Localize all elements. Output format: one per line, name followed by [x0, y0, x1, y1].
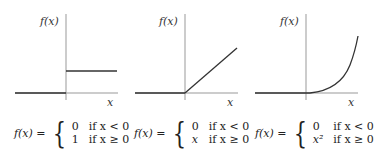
formula-quadratic: f(x) = { 0 if x < 0 x² if x ≥ 0	[255, 118, 374, 148]
formula-lhs: f(x) =	[255, 127, 287, 140]
x-axis-label: x	[227, 96, 234, 109]
formula-cases: 0 if x < 0 1 if x ≥ 0	[72, 120, 130, 146]
formula-lhs: f(x) =	[134, 127, 166, 140]
formula-cases: 0 if x < 0 x² if x ≥ 0	[313, 120, 374, 146]
case-value: 0	[72, 120, 79, 133]
brace-icon: {	[172, 118, 185, 148]
panel-quadratic: f(x) x	[255, 14, 358, 109]
case-condition: if x ≥ 0	[209, 133, 250, 146]
formula-cases: 0 if x < 0 x if x ≥ 0	[192, 120, 250, 146]
x-axis-label: x	[348, 96, 355, 109]
brace-icon: {	[293, 118, 306, 148]
case-condition: if x < 0	[89, 120, 130, 133]
case-value: 1	[72, 133, 79, 146]
panel-linear: f(x) x	[135, 14, 238, 109]
case-value: 0	[192, 120, 199, 133]
y-axis-label: f(x)	[39, 15, 59, 28]
curve-positive	[185, 48, 237, 93]
brace-icon: {	[52, 118, 65, 148]
y-axis-label: f(x)	[279, 15, 299, 28]
case-value: x	[192, 133, 199, 146]
panel-step: f(x) x	[15, 14, 118, 109]
formula-lhs: f(x) =	[14, 127, 46, 140]
x-axis-label: x	[107, 96, 114, 109]
formula-step: f(x) = { 0 if x < 0 1 if x ≥ 0	[14, 118, 129, 148]
case-condition: if x < 0	[333, 120, 374, 133]
y-axis-label: f(x)	[158, 15, 178, 28]
case-condition: if x ≥ 0	[89, 133, 130, 146]
case-value: 0	[313, 120, 324, 133]
case-value: x²	[313, 133, 324, 146]
formula-linear: f(x) = { 0 if x < 0 x if x ≥ 0	[134, 118, 249, 148]
case-condition: if x < 0	[209, 120, 250, 133]
curve-positive	[310, 36, 358, 93]
case-condition: if x ≥ 0	[333, 133, 374, 146]
